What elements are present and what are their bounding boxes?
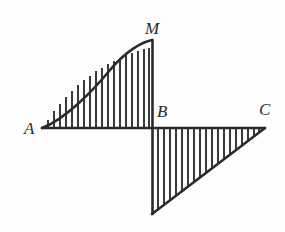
vertex-label-c: C: [259, 101, 270, 118]
diagram-canvas: [0, 0, 285, 232]
vertex-label-b: B: [157, 103, 167, 120]
vertex-label-a: A: [24, 120, 34, 137]
vertex-label-m: M: [145, 20, 159, 37]
upper-curve-path: [42, 40, 152, 128]
figure-container: A M B C: [0, 0, 285, 232]
lower-hypotenuse-path: [152, 128, 265, 214]
